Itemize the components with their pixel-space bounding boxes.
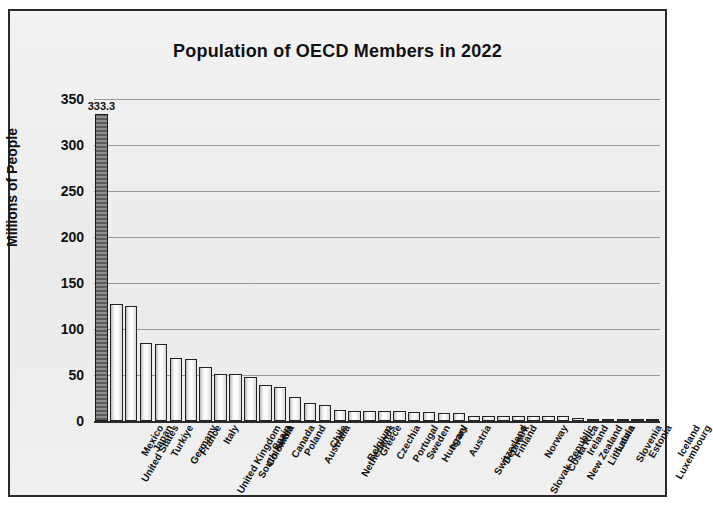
bar[interactable] <box>453 413 466 421</box>
x-axis-tick-labels: United StatesMexicoJapanTurkiyeGermanyFr… <box>94 423 660 516</box>
y-tick-label: 150 <box>61 275 84 291</box>
bar[interactable] <box>155 344 168 421</box>
bar-slot <box>407 99 422 421</box>
bar[interactable] <box>646 419 659 421</box>
bar-slot <box>109 99 124 421</box>
bar[interactable] <box>199 367 212 421</box>
y-tick-label: 300 <box>61 137 84 153</box>
bar[interactable] <box>438 413 451 421</box>
bar[interactable] <box>274 387 287 421</box>
bar-slot <box>392 99 407 421</box>
bar-slot <box>526 99 541 421</box>
bar[interactable] <box>497 416 510 421</box>
bar-slot <box>571 99 586 421</box>
bar[interactable] <box>527 416 540 421</box>
bar[interactable] <box>125 306 138 421</box>
bar-slot <box>466 99 481 421</box>
bar-slot <box>422 99 437 421</box>
bar-slot <box>586 99 601 421</box>
bar-slot <box>481 99 496 421</box>
bar-series: 333.3 <box>94 99 660 421</box>
bar[interactable] <box>423 412 436 421</box>
y-tick-label: 350 <box>61 91 84 107</box>
bar-slot <box>556 99 571 421</box>
y-axis-title: Millions of People <box>4 47 20 247</box>
bar-slot <box>198 99 213 421</box>
y-tick-label: 0 <box>76 413 84 429</box>
bar[interactable] <box>319 405 332 421</box>
bar-slot <box>168 99 183 421</box>
bar[interactable] <box>408 412 421 421</box>
bar[interactable] <box>602 419 615 421</box>
bar[interactable] <box>617 419 630 421</box>
bar[interactable] <box>140 343 153 421</box>
bar-slot <box>183 99 198 421</box>
bar[interactable] <box>289 397 302 421</box>
bar[interactable] <box>214 374 227 421</box>
x-tick-label: Italy <box>221 423 241 446</box>
y-tick-label: 100 <box>61 321 84 337</box>
bar-slot <box>496 99 511 421</box>
bar-slot <box>213 99 228 421</box>
bar-slot <box>451 99 466 421</box>
bar[interactable] <box>95 114 108 421</box>
y-tick-label: 50 <box>68 367 84 383</box>
bar[interactable] <box>185 359 198 421</box>
bar-slot <box>273 99 288 421</box>
bar[interactable] <box>170 358 183 421</box>
bar[interactable] <box>542 416 555 421</box>
chart-title: Population of OECD Members in 2022 <box>10 41 665 62</box>
y-axis-tick-labels: 050100150200250300350 <box>38 99 90 421</box>
bar[interactable] <box>229 374 242 421</box>
x-tick-label: Norway <box>542 423 570 460</box>
bar-slot <box>243 99 258 421</box>
bar-slot <box>362 99 377 421</box>
chart-frame: Population of OECD Members in 2022 Milli… <box>8 9 667 497</box>
bar[interactable] <box>378 411 391 421</box>
plot-area: 333.3 <box>94 99 660 421</box>
bar[interactable] <box>572 418 585 421</box>
bar[interactable] <box>482 416 495 421</box>
x-tick-label: Austria <box>466 423 493 458</box>
bar-slot <box>437 99 452 421</box>
bar-slot <box>288 99 303 421</box>
bar[interactable] <box>244 377 257 421</box>
bar-slot <box>347 99 362 421</box>
bar-slot <box>630 99 645 421</box>
bar-slot: 333.3 <box>94 99 109 421</box>
bar-slot <box>303 99 318 421</box>
bar-slot <box>317 99 332 421</box>
bar-slot <box>541 99 556 421</box>
bar-slot <box>332 99 347 421</box>
bar-slot <box>377 99 392 421</box>
bar[interactable] <box>468 416 481 421</box>
bar[interactable] <box>557 416 570 421</box>
bar[interactable] <box>259 385 272 421</box>
bar-slot <box>258 99 273 421</box>
bar[interactable] <box>512 416 525 421</box>
bar-slot <box>645 99 660 421</box>
bar[interactable] <box>631 419 644 421</box>
bar[interactable] <box>334 410 347 421</box>
bar-slot <box>139 99 154 421</box>
bar[interactable] <box>304 403 317 421</box>
bar-slot <box>600 99 615 421</box>
bar-slot <box>124 99 139 421</box>
bar-slot <box>228 99 243 421</box>
y-tick-label: 200 <box>61 229 84 245</box>
bar[interactable] <box>348 411 361 421</box>
bar[interactable] <box>393 411 406 421</box>
y-tick-label: 250 <box>61 183 84 199</box>
bar-slot <box>615 99 630 421</box>
bar[interactable] <box>363 411 376 421</box>
bar[interactable] <box>587 419 600 421</box>
bar-slot <box>511 99 526 421</box>
bar-slot <box>154 99 169 421</box>
bar[interactable] <box>110 304 123 421</box>
